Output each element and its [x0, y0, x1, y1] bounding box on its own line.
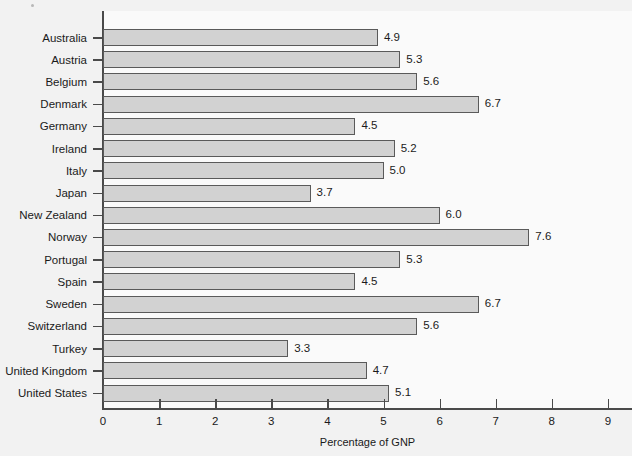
y-axis-label: Australia: [0, 31, 87, 45]
y-axis-tick: [93, 326, 102, 328]
x-axis-tick: [384, 399, 386, 408]
y-axis-tick: [93, 126, 102, 128]
y-axis-label: Denmark: [0, 97, 87, 111]
y-axis-label: United States: [0, 386, 87, 400]
y-axis-label: Norway: [0, 230, 87, 244]
y-axis-tick: [93, 215, 102, 217]
bar-chart: 4.95.35.66.74.55.25.03.76.07.65.34.56.75…: [0, 0, 632, 456]
y-axis-label: Austria: [0, 53, 87, 67]
y-axis-label: Italy: [0, 164, 87, 178]
y-axis-label: Ireland: [0, 142, 87, 156]
y-axis-tick: [93, 193, 102, 195]
y-axis-tick: [93, 304, 102, 306]
x-axis-tick: [271, 399, 273, 408]
x-axis-tick: [159, 399, 161, 408]
x-axis-tick-label: 4: [307, 414, 347, 429]
y-axis-tick: [93, 81, 102, 83]
y-axis-label: Germany: [0, 119, 87, 133]
y-axis-label: Sweden: [0, 297, 87, 311]
y-axis-label: Spain: [0, 275, 87, 289]
x-axis-tick: [608, 399, 610, 408]
y-axis-tick: [93, 148, 102, 150]
y-axis-tick: [93, 170, 102, 172]
x-axis-tick-label: 8: [532, 414, 572, 429]
x-axis-tick-label: 0: [83, 414, 123, 429]
y-axis-label: Belgium: [0, 75, 87, 89]
x-axis-tick: [215, 399, 217, 408]
y-axis-tick: [93, 104, 102, 106]
y-axis-label: Switzerland: [0, 319, 87, 333]
x-axis-tick: [552, 399, 554, 408]
y-axis-tick: [93, 37, 102, 39]
axis-ticks-layer: AustraliaAustriaBelgiumDenmarkGermanyIre…: [0, 0, 632, 456]
x-axis-tick-label: 6: [420, 414, 460, 429]
y-axis-label: New Zealand: [0, 208, 87, 222]
y-axis-label: Japan: [0, 186, 87, 200]
y-axis-tick: [93, 259, 102, 261]
y-axis-tick: [93, 281, 102, 283]
x-axis-tick: [496, 399, 498, 408]
x-axis-tick-label: 2: [195, 414, 235, 429]
y-axis-tick: [93, 370, 102, 372]
y-axis-label: United Kingdom: [0, 364, 87, 378]
x-axis-tick-label: 1: [139, 414, 179, 429]
y-axis-tick: [93, 237, 102, 239]
x-axis-tick-label: 3: [251, 414, 291, 429]
y-axis-tick: [93, 348, 102, 350]
x-axis-tick-label: 7: [476, 414, 516, 429]
x-axis-tick-label: 9: [588, 414, 628, 429]
x-axis-tick-label: 5: [364, 414, 404, 429]
y-axis-tick: [93, 59, 102, 61]
y-axis-tick: [93, 393, 102, 395]
y-axis-label: Portugal: [0, 253, 87, 267]
y-axis-label: Turkey: [0, 342, 87, 356]
x-axis-tick: [327, 399, 329, 408]
x-axis-tick: [440, 399, 442, 408]
x-axis-title: Percentage of GNP: [103, 436, 632, 448]
